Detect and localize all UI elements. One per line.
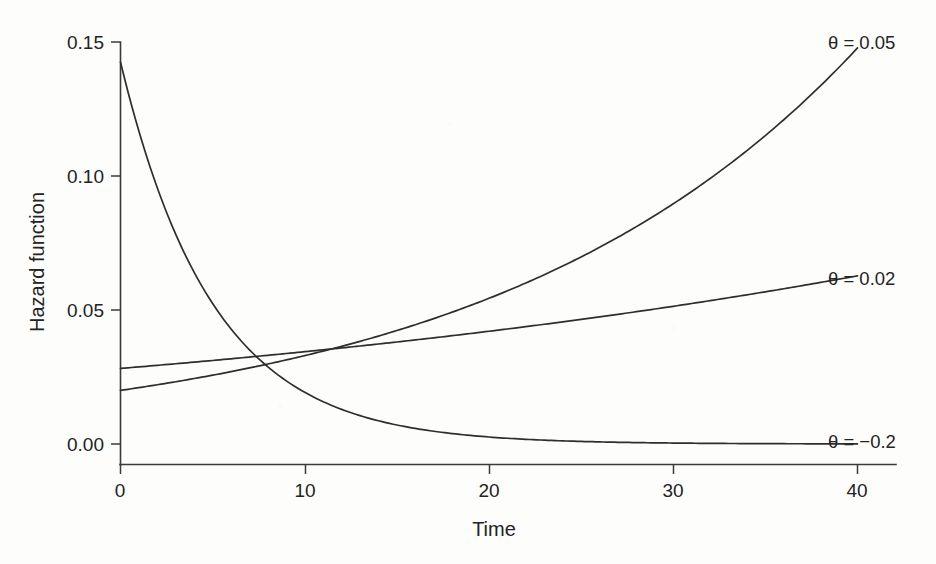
- series-label-theta-0-02: θ = 0.02: [828, 268, 895, 289]
- x-axis-title: Time: [472, 518, 516, 540]
- x-tick-label: 30: [662, 480, 683, 501]
- series-line-theta-0-02: [121, 276, 858, 369]
- y-tick-label: 0.10: [67, 166, 104, 187]
- y-axis-title: Hazard function: [26, 192, 48, 332]
- hazard-function-chart: 0.15 0.10 0.05 0.00 0 10 20 30 40 Time H…: [0, 0, 936, 564]
- series-line-theta-0-05: [121, 48, 858, 390]
- x-tick-label: 20: [478, 480, 499, 501]
- series-label-theta-0-05: θ = 0.05: [828, 32, 895, 53]
- x-tick-label: 40: [846, 480, 867, 501]
- y-tick-label: 0.05: [67, 300, 104, 321]
- chart-figure: 0.15 0.10 0.05 0.00 0 10 20 30 40 Time H…: [0, 0, 936, 564]
- x-tick-group: 0 10 20 30 40: [115, 465, 868, 501]
- series-label-theta-neg-0-2: θ = −0.2: [828, 431, 896, 452]
- y-tick-group: 0.15 0.10 0.05 0.00: [67, 32, 120, 455]
- y-tick-label: 0.00: [67, 434, 104, 455]
- series-group: [121, 48, 858, 444]
- x-tick-label: 10: [294, 480, 315, 501]
- x-tick-label: 0: [115, 480, 126, 501]
- axes-group: [120, 42, 896, 465]
- y-tick-label: 0.15: [67, 32, 104, 53]
- series-label-group: θ = 0.05 θ = 0.02 θ = −0.2: [828, 32, 896, 452]
- series-line-theta-neg-0-2: [121, 62, 858, 444]
